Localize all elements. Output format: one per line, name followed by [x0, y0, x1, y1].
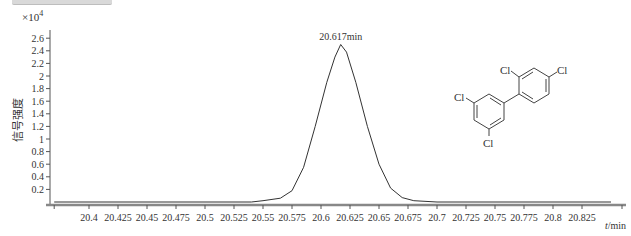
x-tick-label: 20.8	[544, 212, 562, 223]
y-tick-label: 0.4	[32, 171, 45, 182]
ring-right	[519, 68, 549, 103]
cl-label-4: Cl	[557, 64, 567, 76]
y-tick-label: 1.4	[32, 108, 45, 119]
y-tick-label: 2	[39, 71, 44, 82]
cl-bond	[466, 98, 474, 103]
x-tick-label: 20.4	[80, 212, 98, 223]
y-tick-label: 1.6	[32, 96, 45, 107]
ring-left	[474, 94, 504, 129]
y-tick-label: 1.8	[32, 83, 45, 94]
x-tick-label: 20.675	[394, 212, 422, 223]
cl-label-5prime: Cl	[483, 137, 493, 149]
x-tick-label: 20.725	[452, 212, 480, 223]
y-tick-label: 1	[39, 134, 44, 145]
y-multiplier: ×104	[22, 9, 43, 23]
y-tick-label: 0.2	[32, 184, 45, 195]
cl-bond	[549, 72, 557, 77]
double-bond	[522, 92, 533, 99]
y-ticks: 0.20.40.60.811.21.41.61.822.22.42.6	[32, 33, 51, 195]
x-tick-label: 20.525	[220, 212, 248, 223]
y-tick-label: 0.8	[32, 146, 45, 157]
y-tick-label: 2.6	[32, 33, 45, 44]
x-tick-label: 20.825	[568, 212, 596, 223]
x-axis-label: t/min	[605, 220, 626, 231]
x-tick-label: 20.7	[428, 212, 446, 223]
x-tick-label: 20.75	[484, 212, 507, 223]
cl-label-3prime: Cl	[454, 91, 464, 103]
x-ticks: 20.420.42520.4520.47520.520.52520.5520.5…	[54, 205, 622, 223]
y-tick-label: 1.2	[32, 121, 45, 132]
double-bond	[490, 118, 501, 125]
axes	[46, 30, 626, 205]
chromatogram-chart: 0.20.40.60.811.21.41.61.822.22.42.6 20.4…	[0, 0, 631, 236]
x-tick-label: 20.45	[136, 212, 159, 223]
x-tick-label: 20.475	[162, 212, 190, 223]
cl-bond	[511, 71, 519, 77]
double-bond	[522, 72, 533, 79]
chromatogram-trace	[54, 45, 611, 203]
double-bond	[490, 98, 501, 105]
y-tick-label: 2.4	[32, 45, 45, 56]
y-axis-label: 信号强度	[11, 98, 25, 142]
x-tick-label: 20.55	[252, 212, 275, 223]
x-tick-label: 20.6	[312, 212, 330, 223]
peak-label: 20.617min	[319, 31, 362, 42]
biphenyl-bond	[504, 94, 519, 103]
x-tick-label: 20.65	[368, 212, 391, 223]
x-tick-label: 20.5	[196, 212, 214, 223]
y-tick-label: 2.2	[32, 58, 45, 69]
x-tick-label: 20.775	[510, 212, 538, 223]
structure-labels: Cl Cl Cl Cl	[454, 64, 567, 149]
x-tick-label: 20.425	[104, 212, 132, 223]
cl-label-2: Cl	[500, 64, 510, 76]
y-tick-label: 0.6	[32, 159, 45, 170]
x-tick-label: 20.575	[278, 212, 306, 223]
chemical-structure-inset	[466, 68, 557, 136]
x-tick-label: 20.625	[336, 212, 364, 223]
